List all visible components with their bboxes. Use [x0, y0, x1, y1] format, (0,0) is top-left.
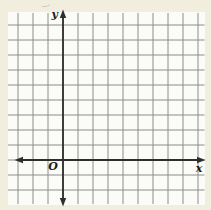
grid-paper	[8, 12, 205, 205]
coordinate-grid-figure: y x O	[0, 0, 211, 210]
x-axis-label: x	[195, 162, 203, 175]
worksheet-page: y x O	[0, 0, 211, 210]
origin-label: O	[48, 160, 58, 173]
